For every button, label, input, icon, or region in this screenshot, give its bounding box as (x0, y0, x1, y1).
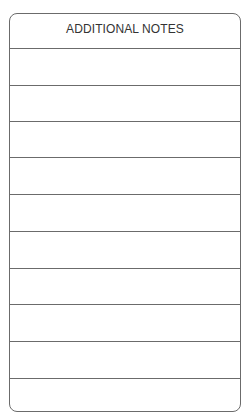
note-line-6 (10, 231, 240, 232)
note-line-2 (10, 85, 240, 86)
additional-notes-card: ADDITIONAL NOTES (9, 13, 241, 412)
note-line-7 (10, 268, 240, 269)
note-line-4 (10, 157, 240, 158)
note-line-10 (10, 378, 240, 379)
note-line-9 (10, 341, 240, 342)
note-line-3 (10, 121, 240, 122)
note-line-5 (10, 194, 240, 195)
note-line-8 (10, 304, 240, 305)
note-line-1 (10, 48, 240, 49)
card-title: ADDITIONAL NOTES (10, 22, 240, 36)
